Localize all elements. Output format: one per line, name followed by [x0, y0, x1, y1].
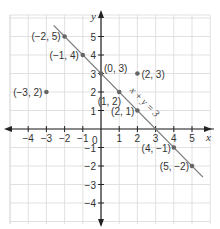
point-label: (−2, 5): [31, 31, 60, 42]
origin-label: 0: [92, 135, 98, 146]
y-axis-down-arrow-icon: [98, 219, 104, 227]
axes: xy: [4, 10, 214, 227]
y-tick-label: −3: [85, 180, 97, 191]
point-label: (2, 1): [111, 106, 134, 117]
plotted-points: (−2, 5)(−1, 4)(0, 3)(1, 2)(2, 1)(4, −1)(…: [13, 31, 194, 173]
y-tick-label: 3: [90, 69, 96, 80]
x-axis-left-arrow-icon: [4, 126, 12, 132]
data-point: [62, 34, 67, 39]
data-point: [117, 90, 122, 95]
x-tick-label: 4: [171, 133, 177, 144]
y-tick-label: 2: [90, 87, 96, 98]
data-point: [190, 164, 195, 169]
x-tick-label: 1: [116, 133, 122, 144]
line-x-plus-y-equals-3: x + y = 3: [54, 25, 203, 177]
point-label: (4, −1): [142, 143, 171, 154]
point-label: (0, 3): [104, 63, 127, 74]
data-point: [99, 71, 104, 76]
y-tick-label: −4: [85, 198, 97, 209]
y-tick-label: 5: [90, 32, 96, 43]
x-tick-label: −2: [59, 133, 71, 144]
point-label: (5, −2): [160, 161, 189, 172]
data-point: [81, 53, 86, 58]
line-path: [54, 25, 203, 177]
grid-lines: [10, 15, 210, 224]
y-axis-up-arrow-icon: [98, 10, 104, 18]
y-tick-label: 4: [90, 50, 96, 61]
data-point: [135, 71, 140, 76]
data-point: [44, 90, 49, 95]
y-tick-label: −2: [85, 161, 97, 172]
data-point: [172, 145, 177, 150]
x-axis-label: x: [205, 131, 211, 143]
point-label: (−3, 2): [13, 87, 42, 98]
data-point: [135, 108, 140, 113]
x-tick-label: 5: [189, 133, 195, 144]
coordinate-plane-chart: xy −4−3−2−11234554321−1−2−3−40 x + y = 3…: [0, 0, 220, 229]
x-tick-label: 2: [135, 133, 141, 144]
x-tick-label: −4: [22, 133, 34, 144]
point-label: (−1, 4): [50, 50, 79, 61]
y-axis-label: y: [90, 10, 96, 22]
x-tick-label: −3: [41, 133, 53, 144]
y-tick-label: 1: [90, 106, 96, 117]
axis-ticks: −4−3−2−11234554321−1−2−3−40: [22, 32, 195, 210]
point-label: (2, 3): [141, 69, 164, 80]
